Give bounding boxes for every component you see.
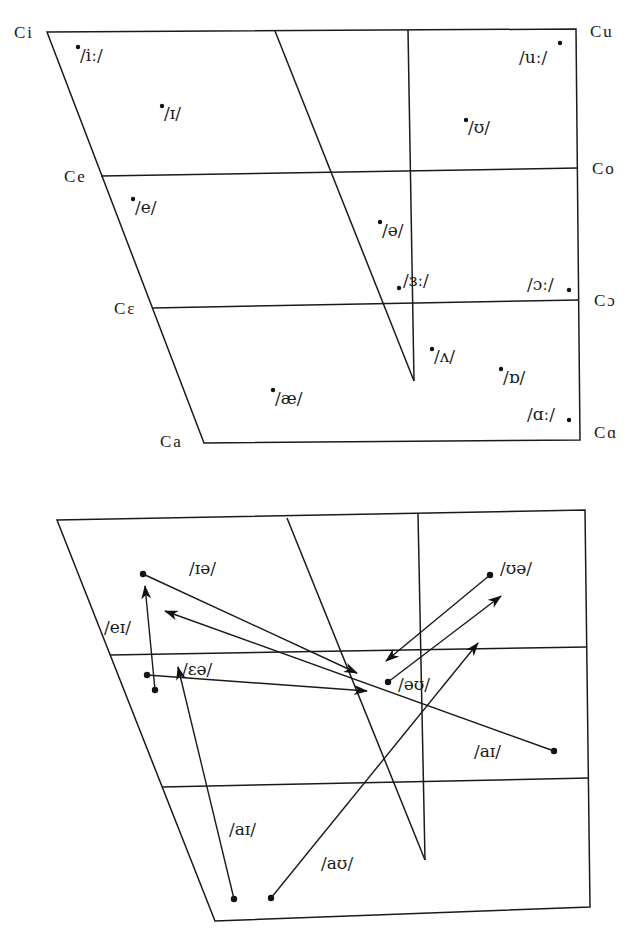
diphthong-chart: /ɪə/ /eɪ/ /ɛə/ /aɪ/ /ʊə/ xyxy=(57,510,590,921)
diphthong-ɪə: /ɪə/ xyxy=(140,558,357,673)
diphthong-ɛə: /ɛə/ xyxy=(144,659,367,691)
open-mid-line xyxy=(162,778,589,787)
diphthong-label: /ɛə/ xyxy=(182,659,213,679)
vowel-label-ʊ: /ʊ/ xyxy=(468,117,490,137)
vowel-dot xyxy=(567,288,571,292)
close-mid-line xyxy=(110,647,587,655)
cardinal-ci: Ci xyxy=(14,23,34,42)
vowel-label-ə: /ə/ xyxy=(382,220,404,240)
vowel-label-ɒ: /ɒ/ xyxy=(503,367,526,387)
monophthong-chart: Ci Ce Cε Ca Cu Co Cɔ Cɑ /iː/ /ɪ/ /e/ /ʊ/… xyxy=(14,22,618,451)
diphthong-aʊ: /aʊ/ xyxy=(268,643,478,901)
cardinal-ca-back: Cɑ xyxy=(594,423,618,442)
vowel-dot xyxy=(567,418,571,422)
vowel-label-ʌ: /ʌ/ xyxy=(434,346,455,366)
diphthong-label: /ɪə/ xyxy=(189,558,216,578)
vowel-label-iː: /iː/ xyxy=(80,45,103,65)
chart-outline xyxy=(47,29,580,443)
glide-arrow xyxy=(271,643,478,898)
cardinal-co: Co xyxy=(592,159,616,178)
cardinal-ca-front: Ca xyxy=(160,432,183,451)
open-mid-line xyxy=(152,300,579,308)
vowel-label-ɜː: /ɜː/ xyxy=(403,270,429,290)
glide-arrow xyxy=(388,596,501,682)
vowel-label-ɪ: /ɪ/ xyxy=(164,103,181,123)
close-mid-line xyxy=(101,168,578,176)
glide-arrow xyxy=(178,667,234,899)
diphthong-label: /ʊə/ xyxy=(500,558,532,578)
glide-arrow xyxy=(143,574,357,673)
diphthong-ɔɪ: /aɪ/ xyxy=(165,611,557,761)
vowel-charts: Ci Ce Cε Ca Cu Co Cɔ Cɑ /iː/ /ɪ/ /e/ /ʊ/… xyxy=(0,0,642,940)
central-diagonal xyxy=(275,31,414,381)
diphthong-label: /aɪ/ xyxy=(474,741,501,761)
diphthong-ʊə: /ʊə/ xyxy=(386,558,532,661)
cardinal-copen: Cɔ xyxy=(594,291,617,310)
diphthong-label: /eɪ/ xyxy=(104,617,131,637)
vowel-dot xyxy=(558,41,562,45)
central-vertical xyxy=(408,30,414,381)
vowel-label-æ: /æ/ xyxy=(275,388,303,408)
diphthong-əʊ: /əʊ/ xyxy=(385,596,501,694)
cardinal-cu: Cu xyxy=(590,22,614,41)
vowel-label-uː: /uː/ xyxy=(519,47,547,67)
vowel-label-ɔː: /ɔː/ xyxy=(527,274,554,294)
vowel-dot xyxy=(397,286,401,290)
cardinal-ce: Ce xyxy=(64,167,87,186)
diphthong-label: /aʊ/ xyxy=(321,853,353,873)
diphthong-eɪ: /eɪ/ xyxy=(104,586,158,693)
diphthong-label: /aɪ/ xyxy=(229,819,256,839)
diphthong-label: /əʊ/ xyxy=(398,674,430,694)
vowel-label-ɑː: /ɑː/ xyxy=(527,404,555,424)
cardinal-cepsilon: Cε xyxy=(114,299,136,318)
vowel-label-e: /e/ xyxy=(135,197,157,217)
